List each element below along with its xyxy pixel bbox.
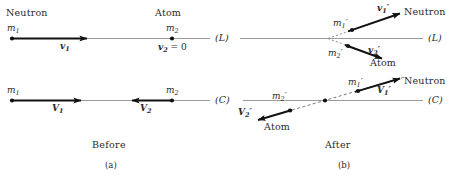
panel-a-cm-mass2-sub: 2	[175, 89, 179, 97]
panel-a-cm-mass2-label: m2	[166, 86, 179, 96]
panel-a-cm-frame-label: (C)	[215, 95, 230, 105]
panel-b-cm-frame-label: (C)	[428, 95, 443, 105]
panel-b-lab-mass2-sym: m	[328, 48, 337, 58]
panel-a-atom-title: Atom	[155, 8, 181, 18]
panel-b-cm-velocity2-prime: ′	[250, 107, 252, 117]
panel-b-lab-mass1-label: m1′	[333, 19, 348, 29]
panel-b-lab-mass2-label: m2′	[328, 49, 343, 59]
panel-a-cm-velocity2-sub: 2	[147, 107, 152, 115]
panel-b-cm-velocity1-sym: V	[377, 85, 384, 95]
panel-b-lab-mass1-dot	[350, 28, 354, 32]
panel-a-cm-velocity2-sym: V	[140, 103, 147, 113]
panel-b-lab-mass2-prime: ′	[341, 48, 343, 58]
panel-b-cm-mass2-label: m2′	[272, 92, 287, 102]
panel-a-cm-mass1-sym: m	[7, 85, 16, 95]
panel-b-lab-guide2-dashed	[328, 39, 348, 47]
panel-b-cm-atom-title: Atom	[264, 122, 290, 132]
panel-b-caption: After	[325, 140, 351, 150]
panel-a-lab-mass1-label: m1	[7, 24, 20, 34]
panel-b-cm-velocity1-label: V1′	[377, 86, 391, 96]
panel-a-lab-velocity1-sub: 1	[65, 45, 70, 53]
panel-a-cm-mass2-sym: m	[166, 85, 175, 95]
panel-a-lab-mass2-label: m2	[166, 24, 179, 34]
panel-a-lab-mass1-sym: m	[7, 23, 16, 33]
panel-b-lab-neutron-title: Neutron	[404, 7, 446, 17]
panel-b-lab-velocity1-arrow	[348, 14, 400, 32]
panel-b-cm-mass2-dot	[288, 108, 292, 112]
panel-b-cm-velocity2-label: V2′	[238, 108, 252, 118]
panel-b-cm-velocity2-sym: V	[238, 107, 245, 117]
panel-b-lab-velocity1-prime: ′	[387, 3, 389, 13]
panel-b-cm-mass2-prime: ′	[285, 91, 287, 101]
panel-b-cm-mass1-label: m1′	[348, 78, 363, 88]
panel-a-lab-mass1-sub: 1	[16, 27, 20, 35]
panel-b-cm-neutron-title: Neutron	[404, 76, 446, 86]
panel-b-lab-mass2-dot	[346, 44, 350, 48]
panel-b-lab-frame-label: (L)	[428, 33, 442, 43]
panel-b-lab-velocity1-label: v1′	[377, 4, 389, 14]
panel-a-cm-mass1-label: m1	[7, 86, 20, 96]
panel-b-lab-atom-title: Atom	[370, 58, 396, 68]
panel-a-lab-mass2-dot	[170, 36, 174, 40]
panel-b-cm-mass1-dot	[356, 89, 360, 93]
panel-a-cm-velocity1-sub: 1	[59, 107, 64, 115]
panel-a-cm-velocity2-label: V2	[140, 104, 152, 114]
panel-a-lab-mass2-sub: 2	[175, 27, 179, 35]
panel-b-cm-mass2-sym: m	[272, 91, 281, 101]
panel-a-neutron-title: Neutron	[6, 8, 48, 18]
panel-a-subcaption: (a)	[105, 161, 117, 170]
panel-b-cm-mass1-sym: m	[348, 77, 357, 87]
panel-a-cm-mass1-sub: 1	[16, 89, 20, 97]
panel-b-lab-velocity2-label: v2′	[368, 46, 380, 56]
panel-b-lab-mass1-sym: m	[333, 18, 342, 28]
panel-a-lab-velocity2-zero-label: v2 = 0	[158, 43, 187, 53]
panel-b-cm-velocity2-arrow	[258, 110, 292, 120]
panel-a-lab-frame-label: (L)	[215, 33, 229, 43]
figure-root: Neutron Atom m1 v1 m2 v2 = 0 (L) m1 V1 m…	[0, 0, 455, 177]
panel-a-lab-mass2-sym: m	[166, 23, 175, 33]
panel-b-lab-velocity2-prime: ′	[378, 45, 380, 55]
panel-a-cm-velocity1-label: V1	[52, 104, 64, 114]
panel-b-lab-mass1-prime: ′	[346, 18, 348, 28]
panel-a-lab-velocity2-tail: = 0	[168, 42, 187, 52]
panel-a-cm-velocity1-sym: V	[52, 103, 59, 113]
panel-a-caption: Before	[92, 140, 126, 150]
panel-b-cm-velocity1-prime: ′	[389, 85, 391, 95]
panel-b-cm-mass1-prime: ′	[361, 77, 363, 87]
panel-a-lab-velocity1-label: v1	[60, 42, 70, 52]
panel-b-subcaption: (b)	[338, 161, 350, 170]
panel-b-cm-centre-dot	[323, 98, 327, 102]
